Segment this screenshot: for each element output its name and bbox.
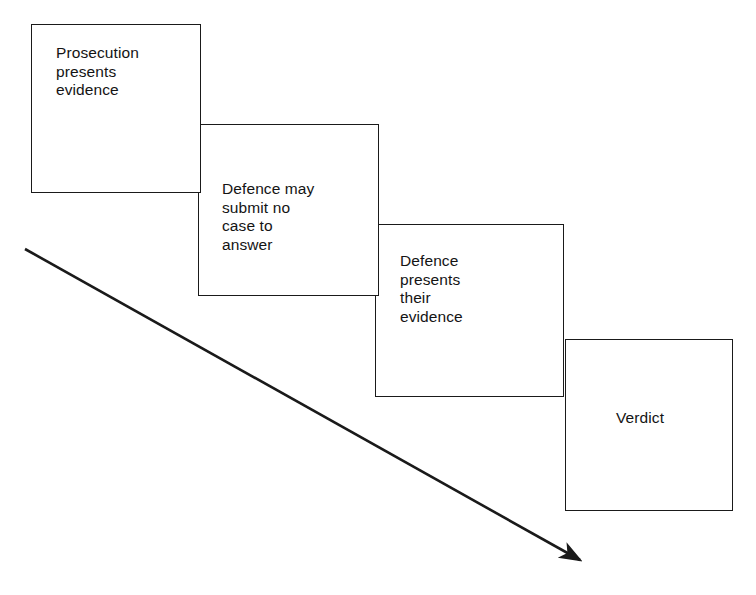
stage-label-3: Defence presents their evidence bbox=[400, 252, 555, 326]
stage-label-1: Prosecution presents evidence bbox=[56, 44, 196, 100]
diagram-canvas: Prosecution presents evidence Defence ma… bbox=[0, 0, 756, 595]
stage-label-2: Defence may submit no case to answer bbox=[222, 180, 372, 254]
stage-label-4: Verdict bbox=[616, 409, 736, 428]
